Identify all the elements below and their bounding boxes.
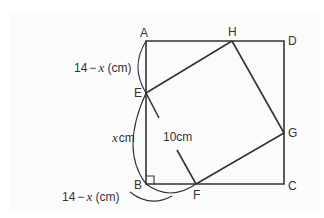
vertex-label-f: F [193, 188, 200, 202]
segment-gh [232, 41, 284, 133]
right-angle-marker-b [146, 176, 154, 184]
length-label-eb: xcm [111, 130, 135, 145]
arc-bf-leader [130, 192, 172, 201]
vertex-label-g: G [288, 126, 297, 140]
segment-fg [196, 133, 284, 184]
vertex-label-c: C [288, 179, 297, 193]
geometry-figure: A H D E G B C F 14−x (cm) xcm 10cm 14−x … [0, 0, 324, 218]
vertex-label-h: H [228, 25, 237, 39]
vertex-label-d: D [288, 34, 297, 48]
segment-ef-upper [146, 93, 159, 118]
diagram-canvas: A H D E G B C F 14−x (cm) xcm 10cm 14−x … [0, 0, 324, 218]
length-label-bf: 14−x (cm) [62, 189, 119, 204]
segment-he [146, 41, 232, 93]
arc-eb [133, 93, 146, 184]
vertex-label-e: E [134, 86, 142, 100]
outer-square-abcd [146, 41, 284, 184]
length-label-ae: 14−x (cm) [74, 60, 131, 75]
segment-ef-lower [177, 150, 196, 184]
vertex-label-a: A [140, 26, 148, 40]
vertex-label-b: B [134, 178, 142, 192]
arc-bf [146, 184, 196, 193]
length-label-ef: 10cm [163, 130, 192, 144]
